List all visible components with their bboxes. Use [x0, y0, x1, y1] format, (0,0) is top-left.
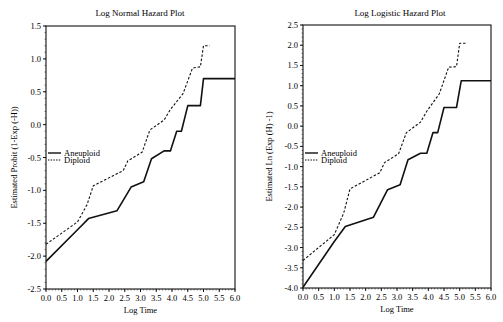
legend-label: Diploid	[321, 155, 348, 165]
x-tick-label: 2.0	[360, 292, 371, 302]
x-tick-label: 3.0	[392, 292, 403, 302]
x-tick-label: 1.0	[329, 292, 340, 302]
y-tick-label: 2.0	[287, 40, 298, 50]
y-tick-label: -3.0	[285, 243, 298, 253]
x-tick-label: 5.5	[470, 292, 481, 302]
y-tick-label: -2.0	[285, 202, 298, 212]
x-tick-label: 0.0	[298, 292, 309, 302]
x-tick-label: 4.0	[423, 292, 434, 302]
figure: Log Normal Hazard Plot-2.5-2.0-1.5-1.0-0…	[0, 0, 503, 322]
y-tick-label: 1.0	[287, 81, 298, 91]
y-tick-label: 0.5	[287, 101, 298, 111]
x-tick-label: 2.5	[376, 292, 387, 302]
x-tick-label: 0.5	[313, 292, 324, 302]
y-tick-label: 2.5	[287, 20, 298, 30]
y-tick-label: -3.5	[285, 263, 298, 273]
log-logistic-hazard-plot: Log Logistic Hazard Plot-4.0-3.5-3.0-2.5…	[0, 0, 503, 322]
y-tick-label: -1.0	[285, 162, 298, 172]
y-tick-label: -2.5	[285, 222, 298, 232]
series-line-aneuploid	[303, 81, 491, 287]
y-tick-label: -4.0	[285, 283, 298, 293]
y-tick-label: -1.5	[285, 182, 298, 192]
x-tick-label: 5.0	[454, 292, 465, 302]
y-tick-label: 0.0	[287, 121, 298, 131]
x-tick-label: 4.5	[439, 292, 450, 302]
chart-title: Log Logistic Hazard Plot	[354, 8, 446, 18]
x-tick-label: 3.5	[407, 292, 418, 302]
x-tick-label: 6.0	[486, 292, 497, 302]
y-axis-label: Estimated Ln (Exp (H) -1)	[264, 111, 274, 201]
y-tick-label: -0.5	[285, 141, 298, 151]
y-tick-label: 1.5	[287, 60, 298, 70]
x-tick-label: 1.5	[345, 292, 356, 302]
x-axis-label: Log Time	[380, 304, 414, 314]
